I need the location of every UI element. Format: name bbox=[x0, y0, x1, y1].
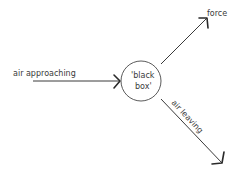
air-leaving-arrow bbox=[161, 99, 224, 164]
arrowhead-icon bbox=[199, 18, 208, 28]
black-box-label-line2: box' bbox=[135, 82, 152, 91]
air-leaving-label: air leaving bbox=[170, 98, 205, 135]
black-box-diagram: air approaching force air leaving 'black… bbox=[0, 0, 240, 181]
black-box-circle bbox=[121, 61, 161, 101]
air-leaving-line bbox=[161, 99, 222, 163]
force-arrow bbox=[161, 18, 208, 64]
black-box-label-line1: 'black bbox=[131, 71, 155, 80]
force-label: force bbox=[207, 9, 227, 18]
force-line bbox=[161, 18, 207, 64]
air-approaching-label: air approaching bbox=[13, 69, 76, 78]
